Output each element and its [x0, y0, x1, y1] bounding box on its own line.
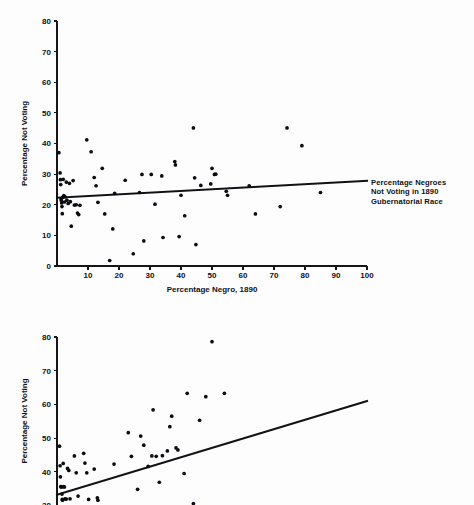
scatter-point	[108, 259, 112, 263]
y-tick-label: 80	[42, 333, 51, 342]
x-tick-label: 50	[208, 271, 217, 280]
scatter-point	[74, 203, 78, 207]
scatter-point	[150, 454, 154, 458]
scatter-point	[96, 200, 100, 204]
plot-area-lower: 304050607080Percentage Not Voting	[0, 300, 474, 505]
scatter-point	[209, 182, 213, 186]
scatter-point	[183, 214, 187, 218]
scatter-point	[226, 193, 230, 197]
scatter-point	[224, 189, 228, 193]
scatter-point	[82, 451, 86, 455]
scatter-point	[87, 498, 91, 502]
y-tick-label: 50	[42, 109, 51, 118]
y-axis-title: Percentage Not Voting	[20, 101, 29, 186]
scatter-point	[63, 485, 67, 489]
scatter-point	[61, 462, 65, 466]
scatter-point	[131, 252, 135, 256]
scatter-point	[100, 166, 104, 170]
y-tick-label: 80	[42, 17, 51, 26]
x-tick-label: 90	[332, 271, 341, 280]
y-tick-label: 40	[42, 139, 51, 148]
scatter-point	[210, 340, 214, 344]
y-tick-label: 70	[42, 367, 51, 376]
scatter-point	[103, 212, 107, 216]
scatter-point	[58, 171, 62, 175]
scatter-point	[176, 448, 180, 452]
y-tick-label: 50	[42, 434, 51, 443]
scatter-point	[68, 200, 72, 204]
y-tick-label: 70	[42, 48, 51, 57]
scatter-point	[192, 126, 196, 130]
scatter-point	[67, 469, 71, 473]
x-tick-label: 80	[301, 271, 310, 280]
scatter-point	[89, 150, 93, 154]
scatter-point	[65, 198, 69, 202]
scatter-point	[194, 243, 198, 247]
scatter-point	[71, 179, 75, 183]
scatter-point	[173, 160, 177, 164]
scatter-point	[60, 205, 64, 209]
legend-upper-line-1: Percentage Negroes	[371, 178, 446, 187]
scatter-point	[112, 462, 116, 466]
scatter-point	[64, 497, 68, 501]
x-tick-label: 60	[239, 271, 248, 280]
scatter-point	[300, 144, 304, 148]
x-tick-label: 10	[84, 271, 93, 280]
scatter-point	[193, 176, 197, 180]
x-axis-title: Percentage Negro, 1890	[167, 285, 258, 294]
y-tick-label: 40	[42, 468, 51, 477]
scatter-point	[174, 163, 178, 167]
scatter-point	[182, 472, 186, 476]
scatter-point	[60, 492, 64, 496]
y-tick-label: 20	[42, 201, 51, 210]
scatter-point	[179, 193, 183, 197]
scatter-point	[94, 184, 98, 188]
y-tick-label: 30	[42, 501, 51, 505]
scatter-point	[157, 480, 161, 484]
scatter-point	[92, 467, 96, 471]
scatter-point	[153, 202, 157, 206]
x-tick-label: 40	[177, 271, 186, 280]
x-tick-label: 100	[360, 271, 374, 280]
scatter-point	[59, 475, 63, 479]
scatter-point	[142, 443, 146, 447]
scatter-point	[76, 494, 80, 498]
scatter-point	[136, 487, 140, 491]
scatter-point	[160, 174, 164, 178]
scatter-point	[113, 192, 117, 196]
scatter-point	[63, 195, 67, 199]
scatter-point	[223, 391, 227, 395]
scatter-point	[123, 178, 127, 182]
scatter-point	[69, 224, 73, 228]
y-tick-label: 60	[42, 400, 51, 409]
scatter-point	[57, 151, 61, 155]
scatter-point	[68, 497, 72, 501]
scatter-point	[151, 408, 155, 412]
y-axis-title: Percentage Not Voting	[20, 378, 29, 463]
scatter-point	[154, 454, 158, 458]
y-tick-label: 0	[47, 262, 52, 271]
legend-upper-line-3: Gubernatorial Race	[371, 197, 446, 206]
y-tick-label: 30	[42, 170, 51, 179]
scatter-point	[83, 461, 87, 465]
x-tick-label: 30	[146, 271, 155, 280]
scatter-point	[60, 212, 64, 216]
scatter-point	[142, 239, 146, 243]
scatter-point	[92, 176, 96, 180]
scatter-point	[140, 173, 144, 177]
scatter-point	[177, 235, 181, 239]
scatter-point	[149, 173, 153, 177]
plot-area-upper: 01020304050607080102030405060708090100Pe…	[0, 0, 474, 305]
scatter-point	[74, 471, 78, 475]
scatter-point	[59, 183, 63, 187]
scatter-point	[204, 395, 208, 399]
scatter-point	[58, 464, 62, 468]
y-tick-label: 10	[42, 231, 51, 240]
scatter-point	[285, 126, 289, 130]
scatter-point	[58, 444, 62, 448]
scatter-point	[139, 434, 143, 438]
legend-upper-line-2: Not Voting in 1890	[371, 187, 446, 196]
scatter-point	[214, 172, 218, 176]
scatter-point	[254, 212, 258, 216]
scatter-point	[247, 184, 251, 188]
